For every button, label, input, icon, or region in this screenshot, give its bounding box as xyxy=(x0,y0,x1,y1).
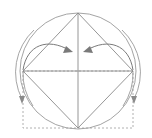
geometry-figure xyxy=(0,0,152,138)
right-down-arrow-head xyxy=(131,96,137,104)
left-down-arrow-head xyxy=(19,96,25,104)
right-rotation-arrow-head xyxy=(83,46,93,53)
left-rotation-arrow-curve xyxy=(23,44,69,70)
geometry-canvas xyxy=(0,0,152,138)
right-rotation-arrow-curve xyxy=(87,44,133,70)
left-rotation-arrow-head xyxy=(63,46,73,53)
